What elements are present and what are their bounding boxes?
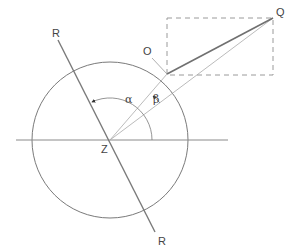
alpha-arc xyxy=(92,98,152,140)
label-r-bottom: R xyxy=(158,235,166,247)
label-o: O xyxy=(143,45,152,57)
label-beta: β xyxy=(153,93,159,106)
z-to-q-line xyxy=(110,18,273,140)
label-q: Q xyxy=(276,6,285,18)
label-z: Z xyxy=(101,143,108,155)
z-to-o-line xyxy=(110,74,167,140)
label-r-top: R xyxy=(52,27,60,39)
label-alpha: α xyxy=(125,93,133,106)
o-tick-line xyxy=(152,58,167,74)
o-to-q-line xyxy=(167,18,273,74)
r-line xyxy=(58,40,155,232)
geometry-diagram: R R Q O Z α β xyxy=(0,0,290,250)
